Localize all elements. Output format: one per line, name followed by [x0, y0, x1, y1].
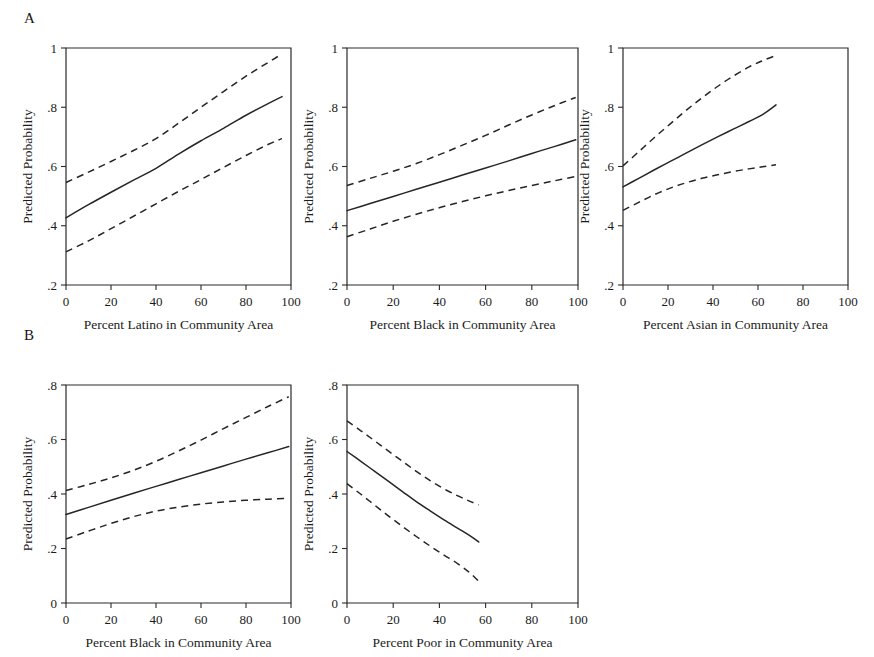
- x-tick-label: 20: [662, 294, 675, 309]
- y-axis-title: Predicted Probability: [301, 109, 316, 224]
- x-tick-label: 20: [387, 294, 400, 309]
- predicted-probability-line: [347, 140, 576, 211]
- x-axis-title: Percent Black in Community Area: [370, 317, 556, 332]
- y-tick-label: .2: [328, 541, 338, 556]
- x-tick-label: 40: [433, 294, 446, 309]
- y-tick-label: .6: [47, 159, 57, 174]
- confidence-band-line: [623, 55, 776, 166]
- x-tick-label: 80: [240, 294, 253, 309]
- y-axis-title: Predicted Probability: [20, 109, 35, 224]
- x-tick-label: 40: [433, 612, 446, 627]
- y-tick-label: .4: [47, 487, 57, 502]
- x-tick-label: 40: [150, 294, 163, 309]
- x-tick-label: 80: [525, 294, 538, 309]
- x-tick-label: 20: [387, 612, 400, 627]
- x-tick-label: 80: [525, 612, 538, 627]
- y-tick-label: .4: [328, 218, 338, 233]
- x-tick-label: 0: [344, 294, 351, 309]
- x-tick-label: 100: [838, 294, 858, 309]
- y-tick-label: .8: [47, 100, 57, 115]
- x-tick-label: 60: [195, 612, 208, 627]
- x-axis-title: Percent Latino in Community Area: [84, 317, 274, 332]
- x-tick-label: 0: [63, 612, 70, 627]
- plot-frame: [66, 385, 291, 603]
- y-tick-label: 0: [51, 596, 58, 611]
- plot-frame: [347, 385, 578, 603]
- chart-svg-a1: .2.4.6.81020406080100Percent Latino in C…: [10, 34, 305, 347]
- chart-panel-a3: .2.4.6.81020406080100Percent Asian in Co…: [567, 34, 862, 347]
- chart-panel-b2: 0.2.4.6.8020406080100Percent Poor in Com…: [291, 371, 592, 657]
- y-tick-label: .4: [604, 218, 614, 233]
- y-axis-title: Predicted Probability: [20, 437, 35, 552]
- x-tick-label: 0: [344, 612, 351, 627]
- plot-frame: [347, 48, 578, 285]
- y-tick-label: .2: [604, 278, 614, 293]
- y-tick-label: .6: [47, 432, 57, 447]
- y-tick-label: 1: [608, 41, 615, 56]
- predicted-probability-line: [66, 447, 289, 515]
- x-tick-label: 60: [479, 612, 492, 627]
- y-tick-label: 1: [332, 41, 339, 56]
- confidence-band-line: [66, 54, 282, 183]
- y-tick-label: .8: [47, 378, 57, 393]
- confidence-band-line: [347, 97, 576, 185]
- y-axis-title: Predicted Probability: [301, 437, 316, 552]
- y-tick-label: .6: [328, 432, 338, 447]
- confidence-band-line: [347, 421, 479, 505]
- x-tick-label: 80: [797, 294, 810, 309]
- y-tick-label: .4: [47, 218, 57, 233]
- chart-svg-a2: .2.4.6.81020406080100Percent Black in Co…: [291, 34, 592, 347]
- y-tick-label: .6: [328, 159, 338, 174]
- x-tick-label: 40: [150, 612, 163, 627]
- y-tick-label: .2: [328, 278, 338, 293]
- x-tick-label: 60: [195, 294, 208, 309]
- chart-panel-a1: .2.4.6.81020406080100Percent Latino in C…: [10, 34, 305, 347]
- x-axis-title: Percent Poor in Community Area: [373, 635, 553, 650]
- x-tick-label: 80: [240, 612, 253, 627]
- chart-svg-b1: 0.2.4.6.8020406080100Percent Black in Co…: [10, 371, 305, 657]
- confidence-band-line: [66, 139, 282, 252]
- y-tick-label: .6: [604, 159, 614, 174]
- x-tick-label: 100: [568, 612, 588, 627]
- predicted-probability-line: [66, 97, 282, 218]
- y-tick-label: .8: [328, 100, 338, 115]
- x-tick-label: 60: [752, 294, 765, 309]
- y-axis-title: Predicted Probability: [577, 109, 592, 224]
- confidence-band-line: [623, 165, 776, 211]
- x-tick-label: 20: [105, 294, 118, 309]
- y-tick-label: .8: [604, 100, 614, 115]
- x-tick-label: 40: [707, 294, 720, 309]
- chart-svg-a3: .2.4.6.81020406080100Percent Asian in Co…: [567, 34, 862, 347]
- x-tick-label: 60: [479, 294, 492, 309]
- x-tick-label: 20: [105, 612, 118, 627]
- y-tick-label: 0: [332, 596, 339, 611]
- x-tick-label: 0: [63, 294, 70, 309]
- chart-panel-a2: .2.4.6.81020406080100Percent Black in Co…: [291, 34, 592, 347]
- x-axis-title: Percent Asian in Community Area: [643, 317, 828, 332]
- panel-letter-a: A: [24, 10, 35, 27]
- confidence-band-line: [347, 177, 576, 237]
- y-tick-label: 1: [51, 41, 58, 56]
- confidence-band-line: [66, 397, 289, 491]
- x-tick-label: 0: [620, 294, 627, 309]
- y-tick-label: .8: [328, 378, 338, 393]
- x-axis-title: Percent Black in Community Area: [86, 635, 272, 650]
- y-tick-label: .2: [47, 278, 57, 293]
- chart-svg-b2: 0.2.4.6.8020406080100Percent Poor in Com…: [291, 371, 592, 657]
- chart-panel-b1: 0.2.4.6.8020406080100Percent Black in Co…: [10, 371, 305, 657]
- y-tick-label: .4: [328, 487, 338, 502]
- y-tick-label: .2: [47, 541, 57, 556]
- plot-frame: [623, 48, 848, 285]
